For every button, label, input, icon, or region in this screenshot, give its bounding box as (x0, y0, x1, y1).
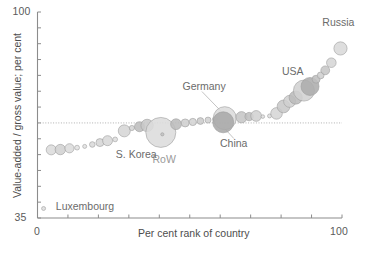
y-axis-bottom-tick-label: 35 (15, 211, 27, 223)
x-axis-title: Per cent rank of country (138, 227, 249, 239)
bubble-label-china: China (220, 137, 247, 149)
x-axis-right-tick-label: 100 (330, 225, 348, 237)
y-axis-title: Value-added / gross value; per cent (11, 33, 23, 198)
bubble-label-usa: USA (282, 65, 304, 77)
y-axis-top-tick-label: 100 (13, 5, 31, 17)
bubble-label-russia: Russia (322, 16, 354, 28)
axis-ticks (38, 12, 343, 218)
axis-lines (38, 12, 343, 218)
x-axis-left-tick-label: 0 (34, 225, 40, 237)
bubble-label-luxembourg: Luxembourg (56, 200, 114, 212)
bubble-label-germany: Germany (183, 80, 226, 92)
scatter-plot-canvas (0, 0, 368, 258)
bubble-label-s-korea: S. Korea (116, 148, 157, 160)
chart-figure: 100 35 0 100 Per cent rank of country Va… (0, 0, 368, 258)
